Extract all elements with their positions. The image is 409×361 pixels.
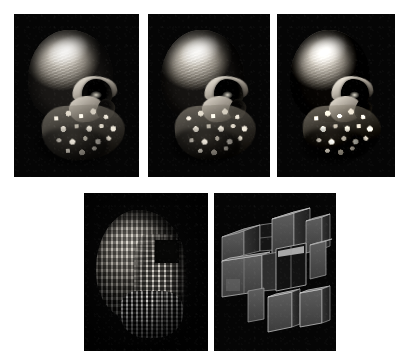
- panel-4-stage: [84, 193, 208, 351]
- panel-skull-medium-resolution: [148, 14, 270, 177]
- brick-box-bottom-center: [268, 289, 300, 332]
- skull-render-voxel: [84, 193, 208, 351]
- panel-3-stage: [277, 14, 395, 177]
- panel-skull-full-resolution: [14, 14, 139, 177]
- skull-jaw-shadow: [39, 128, 109, 164]
- skull-render-medium: [148, 14, 270, 177]
- skull-jaw-shadow: [301, 128, 367, 164]
- brick-box-bottom-right: [300, 286, 330, 327]
- brick-box-center-frame: [276, 243, 306, 291]
- brick-box-lower-left: [248, 288, 264, 322]
- panel-5-stage: [214, 193, 336, 351]
- panel-2-stage: [148, 14, 270, 177]
- panel-skull-octree-bricks: [214, 193, 336, 351]
- panel-1-stage: [14, 14, 139, 177]
- skull-render-bricks: [214, 193, 336, 351]
- panel-skull-voxel-blocks: [84, 193, 208, 351]
- skull-render-reduced: [277, 14, 395, 177]
- skull-render-full: [14, 14, 139, 177]
- figure-container: [0, 0, 409, 361]
- voxel-vignette: [84, 193, 208, 351]
- skull-jaw-shadow: [172, 128, 240, 164]
- panel-skull-reduced-resolution: [277, 14, 395, 177]
- brick-boxes-svg: [214, 193, 336, 351]
